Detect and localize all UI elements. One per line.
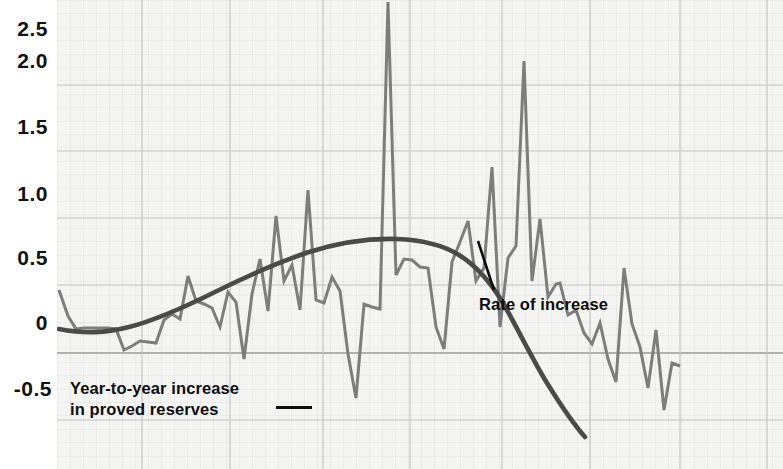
y-tick-1-0: 1.0 [0, 183, 57, 204]
annotation-series-line2: in proved reserves [70, 399, 239, 420]
y-tick-0-5: 0.5 [0, 247, 57, 268]
y-tick-2-5: 2.5 [0, 18, 57, 39]
y-axis: 2.5 2.0 1.5 1.0 0.5 0 -0.5 [0, 0, 57, 469]
annotation-series-line1: Year-to-year increase [70, 379, 239, 397]
y-tick-2-0: 2.0 [0, 50, 57, 71]
y-tick-1-5: 1.5 [0, 116, 57, 137]
y-tick-minus-0-5: -0.5 [0, 378, 57, 399]
annotation-rate-of-increase: Rate of increase [479, 294, 608, 315]
series-year-to-year-increase [59, 2, 680, 410]
annotation-year-to-year-increase: Year-to-year increase in proved reserves [70, 378, 239, 420]
y-tick-0: 0 [0, 312, 57, 333]
chart-page: 2.5 2.0 1.5 1.0 0.5 0 -0.5 Year-to-year … [0, 0, 783, 469]
series-annotation-leader-line [276, 406, 312, 409]
